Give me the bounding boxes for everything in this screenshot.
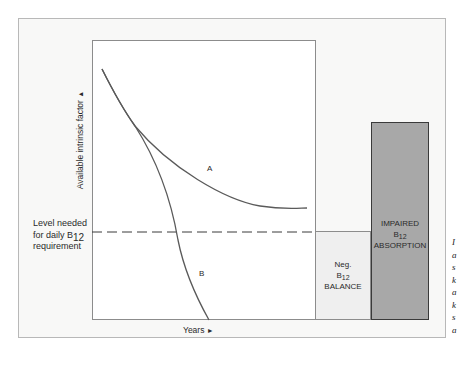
curve-a [102,69,307,209]
impaired-absorption-box: IMPAIRED B12 ABSORPTION [371,122,429,320]
threshold-label: Level needed for daily B12 requirement [33,218,87,252]
curve-a-label: A [207,164,212,173]
up-arrow-icon: ▲ [77,91,84,98]
negative-balance-box: Neg. B12 BALANCE [315,231,371,320]
x-axis-label: Years ► [183,325,214,335]
curve-b-label: B [199,269,204,278]
cropped-caption-fragment: I a s k a k s a [452,236,457,336]
right-arrow-icon: ► [207,327,214,334]
curve-b [102,69,209,320]
y-axis-label: Available intrinsic factor ▲ [75,91,85,189]
